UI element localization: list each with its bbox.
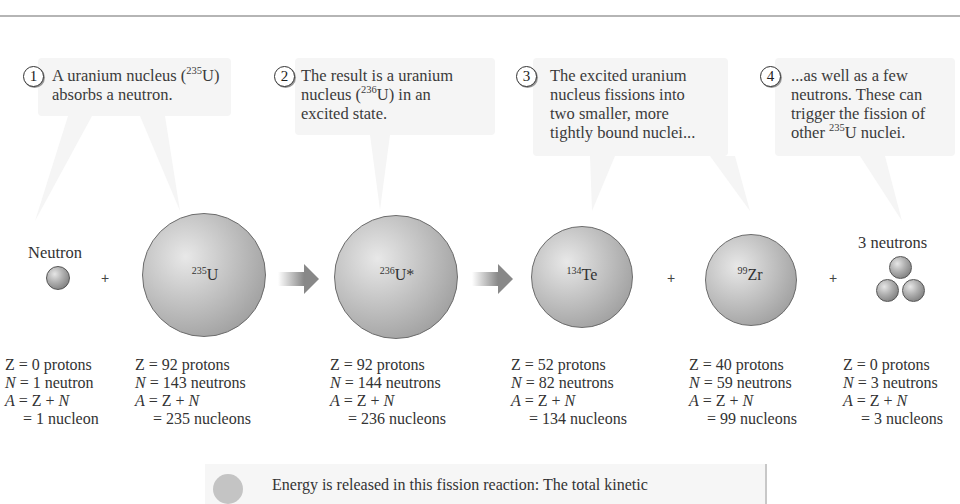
neutron-sphere bbox=[46, 266, 70, 290]
uranium-235-symbol: 235U bbox=[180, 266, 230, 284]
callout-4-line3: trigger the fission of bbox=[791, 104, 925, 123]
callout-1-line1-pre: A uranium nucleus ( bbox=[52, 66, 186, 85]
callout-4-text: ...as well as a few neutrons. These can … bbox=[791, 66, 925, 142]
arrow-right-icon bbox=[472, 264, 514, 294]
callout-1-line2: absorbs a neutron. bbox=[52, 85, 219, 104]
three-neutrons-label: 3 neutrons bbox=[858, 233, 927, 253]
zirconium-99-data: Z = 40 protonsN = 59 neutronsA = Z + N= … bbox=[689, 356, 797, 428]
energy-note-text: Energy is released in this fission react… bbox=[272, 476, 648, 494]
callout-1-pointer bbox=[30, 116, 190, 226]
callout-1-text: A uranium nucleus (235U) absorbs a neutr… bbox=[52, 66, 219, 104]
callout-1-sup: 235 bbox=[186, 65, 202, 76]
neutron-sphere-top bbox=[889, 256, 912, 279]
step-3-badge: 3 bbox=[516, 66, 537, 87]
energy-icon bbox=[213, 474, 243, 504]
neutron-sphere-right bbox=[902, 279, 925, 302]
callout-4-line4-post: U nuclei. bbox=[845, 123, 905, 142]
callout-2-pointer bbox=[360, 135, 420, 215]
neutron-label: Neutron bbox=[28, 243, 82, 263]
callout-4-line1: ...as well as a few bbox=[791, 66, 925, 85]
callout-3-pointer bbox=[580, 156, 760, 216]
step-2-badge: 2 bbox=[274, 66, 295, 87]
step-1-badge: 1 bbox=[23, 66, 44, 87]
callout-4-line4-pre: other bbox=[791, 123, 829, 142]
callout-2-line2-pre: nucleus ( bbox=[301, 85, 361, 104]
zirconium-99-symbol: 99Zr bbox=[725, 266, 775, 284]
callout-4-sup: 235 bbox=[829, 122, 845, 133]
tellurium-134-symbol: 134Te bbox=[557, 266, 607, 284]
callout-4-line2: neutrons. These can bbox=[791, 85, 925, 104]
callout-3-line3: two smaller, more bbox=[550, 104, 695, 123]
step-4-badge: 4 bbox=[760, 66, 781, 87]
plus-sign: + bbox=[101, 270, 109, 286]
uranium-236-symbol: 236U* bbox=[370, 266, 424, 284]
callout-3-line1: The excited uranium bbox=[550, 66, 695, 85]
tellurium-134-data: Z = 52 protonsN = 82 neutronsA = Z + N= … bbox=[511, 356, 627, 428]
callout-2-line2-post: U) in an bbox=[377, 85, 431, 104]
callout-3-line4: tightly bound nuclei... bbox=[550, 123, 695, 142]
callout-3-line2: nucleus fissions into bbox=[550, 85, 695, 104]
callout-2-line1: The result is a uranium bbox=[301, 66, 453, 85]
plus-sign: + bbox=[667, 270, 675, 286]
arrow-right-icon bbox=[278, 264, 320, 294]
neutron-sphere-left bbox=[876, 279, 899, 302]
uranium-235-data: Z = 92 protonsN = 143 neutronsA = Z + N=… bbox=[135, 356, 251, 428]
callout-2-sup: 236 bbox=[361, 84, 377, 95]
top-rule bbox=[0, 15, 960, 17]
three-neutrons-data: Z = 0 protonsN = 3 neutronsA = Z + N= 3 … bbox=[843, 356, 943, 428]
uranium-236-data: Z = 92 protonsN = 144 neutronsA = Z + N=… bbox=[330, 356, 446, 428]
callout-2-line3: excited state. bbox=[301, 104, 453, 123]
callout-2-text: The result is a uranium nucleus (236U) i… bbox=[301, 66, 453, 123]
plus-sign: + bbox=[829, 270, 837, 286]
callout-3-text: The excited uranium nucleus fissions int… bbox=[550, 66, 695, 142]
neutron-data: Z = 0 protonsN = 1 neutronA = Z + N= 1 n… bbox=[5, 356, 99, 428]
callout-1-line1-post: U) bbox=[202, 66, 219, 85]
callout-4-pointer bbox=[860, 156, 920, 226]
